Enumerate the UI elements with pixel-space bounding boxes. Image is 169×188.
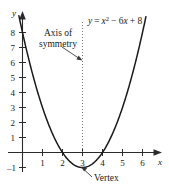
equation-x2: x bbox=[123, 16, 129, 26]
axis-of-symmetry-arrow bbox=[62, 47, 83, 61]
svg-text:y=x2− 6x+ 8: y=x2− 6x+ 8 bbox=[87, 15, 142, 27]
vertex-arrow bbox=[81, 167, 92, 177]
y-tick-label-6: 6 bbox=[11, 58, 16, 68]
y-tick-label-4: 4 bbox=[11, 88, 16, 98]
parabola-figure: y x 1 2 3 4 5 6 1 2 3 bbox=[0, 0, 169, 188]
x-tick-label-4: 4 bbox=[100, 158, 105, 168]
equation-equals: = bbox=[94, 16, 99, 26]
x-tick-label-6: 6 bbox=[140, 158, 145, 168]
equation-label: y=x2− 6x+ 8 bbox=[87, 15, 142, 27]
x-tick-label-3: 3 bbox=[80, 158, 85, 168]
y-tick-label-7: 7 bbox=[11, 43, 16, 53]
y-tick-label-neg1: –1 bbox=[6, 163, 16, 173]
y-tick-label-5: 5 bbox=[11, 73, 16, 83]
axis-of-symmetry-label-line1: Axis of bbox=[44, 28, 73, 38]
equation-y: y bbox=[87, 16, 93, 26]
graph-canvas: y x 1 2 3 4 5 6 1 2 3 bbox=[0, 0, 169, 188]
x-tick-label-1: 1 bbox=[40, 158, 45, 168]
y-tick-label-8: 8 bbox=[11, 28, 16, 38]
y-tick-label-2: 2 bbox=[11, 118, 16, 128]
y-tick-label-3: 3 bbox=[11, 103, 16, 113]
y-tick-label-1: 1 bbox=[11, 133, 16, 143]
y-axis-arrowhead bbox=[19, 11, 26, 20]
x-tick-label-5: 5 bbox=[120, 158, 125, 168]
equation-middle: − 6 bbox=[111, 16, 124, 26]
vertex-label: Vertex bbox=[94, 173, 119, 183]
axis-of-symmetry-label-line2: symmetry bbox=[39, 39, 77, 49]
x-tick-label-2: 2 bbox=[60, 158, 65, 168]
y-axis-label: y bbox=[11, 8, 16, 18]
equation-constant: + 8 bbox=[130, 16, 143, 26]
x-axis-label: x bbox=[157, 157, 162, 167]
x-axis-arrowhead bbox=[154, 149, 163, 156]
equation-exponent: 2 bbox=[106, 15, 109, 22]
